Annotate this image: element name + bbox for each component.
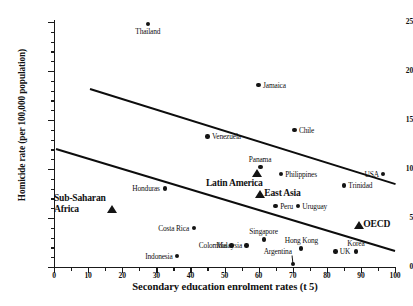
data-point-label: Argentina [264, 248, 292, 255]
y-tick-minor [51, 159, 55, 160]
y-tick-minor [51, 140, 55, 141]
x-tick-label: 30 [143, 272, 169, 280]
upper-regression-line [89, 88, 395, 185]
y-tick-minor [51, 100, 55, 101]
group-marker-label: Sub-SaharanAfrica [54, 193, 106, 214]
data-point-label: Singapore [249, 228, 278, 235]
y-tick-minor [51, 179, 55, 180]
data-point-label: USA [365, 171, 379, 178]
data-point-marker [163, 186, 167, 190]
data-point-marker [229, 243, 233, 247]
data-point-label: Venezuela [212, 133, 241, 140]
data-point-leader-line [291, 256, 293, 265]
data-point-marker [299, 246, 303, 250]
x-tick-minor [378, 267, 379, 271]
x-tick-label: 10 [75, 272, 101, 280]
y-tick-minor [51, 110, 55, 111]
y-tick-minor [51, 91, 55, 92]
y-tick-major [48, 22, 54, 23]
y-tick-label: 20 [369, 67, 413, 75]
data-point-marker [146, 22, 150, 26]
data-point-marker [333, 249, 337, 253]
y-tick-label: 25 [369, 18, 413, 26]
data-point-label: Panama [249, 156, 272, 163]
data-point-label: Chile [299, 127, 314, 134]
plot-area: Homicide rate (per 100,000 population) S… [0, 0, 413, 306]
y-tick-minor [51, 130, 55, 131]
data-point-marker [205, 134, 209, 138]
data-point-marker [381, 172, 385, 176]
y-tick-label: 15 [369, 116, 413, 124]
data-point-label: Colombia [199, 242, 227, 249]
homicide-vs-education-scatter-chart: Homicide rate (per 100,000 population) S… [0, 0, 413, 306]
x-axis-title: Secondary education enrolment rates (t 5… [54, 281, 396, 292]
x-tick-label: 80 [314, 272, 340, 280]
data-point-marker [354, 249, 358, 253]
data-point-marker [175, 254, 179, 258]
data-point-label: Uruguay [302, 203, 327, 210]
x-tick-minor [242, 267, 243, 271]
x-tick-minor [276, 267, 277, 271]
y-tick-minor [51, 228, 55, 229]
group-marker-label: OECD [363, 219, 390, 230]
x-tick-minor [207, 267, 208, 271]
y-tick-major [48, 120, 54, 121]
y-tick-minor [51, 61, 55, 62]
group-marker-triangle [252, 169, 262, 177]
y-tick-label: 0 [369, 263, 413, 271]
x-tick-minor [344, 267, 345, 271]
data-point-marker [342, 183, 346, 187]
y-tick-minor [51, 51, 55, 52]
x-tick-label: 0 [41, 272, 67, 280]
y-tick-major [48, 169, 54, 170]
y-tick-major [48, 218, 54, 219]
group-marker-label: East Asia [264, 188, 300, 199]
y-axis-title: Homicide rate (per 100,000 population) [17, 40, 27, 210]
data-point-label: Trinidad [348, 182, 372, 189]
data-point-label: Hong Kong [285, 237, 318, 244]
x-tick-label: 60 [246, 272, 272, 280]
data-point-marker [192, 226, 196, 230]
data-point-marker [296, 204, 300, 208]
y-axis-line [54, 20, 55, 268]
data-point-label: Peru [280, 203, 293, 210]
data-point-label: Jamaica [263, 82, 286, 89]
x-tick-label: 50 [212, 272, 238, 280]
data-point-label: Honduras [132, 185, 160, 192]
y-tick-minor [51, 238, 55, 239]
data-point-marker [262, 237, 266, 241]
data-point-label: Costa Rica [158, 225, 189, 232]
y-tick-minor [51, 32, 55, 33]
x-tick-minor [310, 267, 311, 271]
data-point-marker [244, 243, 248, 247]
data-point-marker [292, 128, 296, 132]
x-tick-label: 20 [109, 272, 135, 280]
data-point-label: Thailand [135, 28, 160, 35]
x-tick-minor [139, 267, 140, 271]
lower-regression-line [56, 148, 396, 252]
y-tick-minor [51, 247, 55, 248]
x-tick-label: 90 [348, 272, 374, 280]
data-point-marker [273, 204, 277, 208]
y-tick-minor [51, 81, 55, 82]
x-tick-label: 70 [280, 272, 306, 280]
y-tick-minor [51, 42, 55, 43]
data-point-label: UK [340, 248, 350, 255]
x-tick-minor [173, 267, 174, 271]
y-tick-minor [51, 257, 55, 258]
data-point-marker [256, 83, 260, 87]
data-point-label: Philippines [285, 171, 317, 178]
x-tick-minor [105, 267, 106, 271]
y-tick-minor [51, 189, 55, 190]
group-marker-label: Latin America [206, 178, 263, 189]
data-point-marker [279, 172, 283, 176]
y-tick-minor [51, 149, 55, 150]
group-marker-triangle [107, 205, 117, 213]
data-point-label: Korea [347, 240, 364, 247]
data-point-label: Indonesia [145, 253, 172, 260]
x-tick-label: 40 [177, 272, 203, 280]
y-tick-major [48, 71, 54, 72]
x-tick-label: 100 [382, 272, 408, 280]
x-tick-minor [71, 267, 72, 271]
